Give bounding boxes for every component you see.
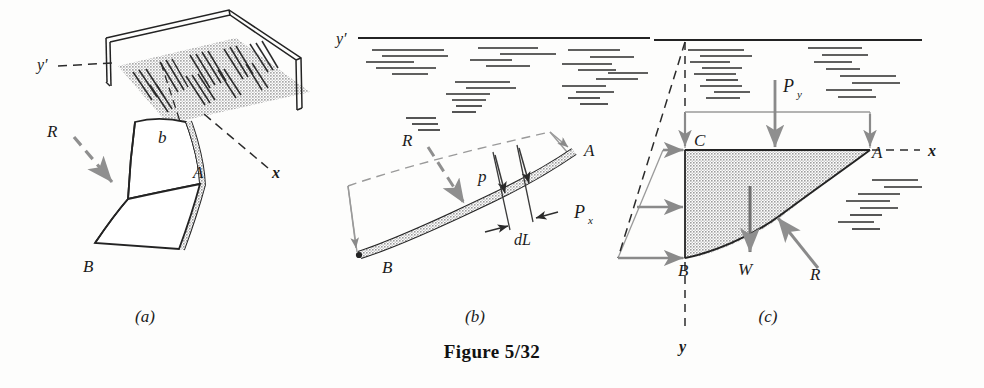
- force-label-Px-subscript-c: x: [587, 214, 593, 226]
- point-label-B-c: B: [678, 261, 689, 280]
- panel-label-c: (c): [759, 307, 778, 326]
- figure-canvas: y′ x R b A B (a): [0, 0, 984, 388]
- force-label-R-c: R: [809, 265, 821, 284]
- force-label-Py-c: P: [782, 76, 794, 96]
- axis-label-y-prime-b: y′: [334, 30, 347, 48]
- force-label-Py-subscript-c: y: [796, 88, 802, 100]
- axis-label-x-c: x: [927, 142, 936, 159]
- panel-label-b: (b): [465, 307, 485, 326]
- point-label-B-a: B: [83, 257, 94, 276]
- axis-label-x-a: x: [271, 164, 280, 181]
- point-label-A-b: A: [583, 141, 595, 160]
- force-label-R-a: R: [46, 122, 58, 141]
- point-label-C-c: C: [694, 131, 706, 150]
- force-label-W-c: W: [738, 260, 754, 279]
- axis-label-y-prime-a: y′: [35, 56, 48, 74]
- pressure-label-p-b: p: [477, 167, 487, 186]
- point-label-A-a: A: [192, 163, 204, 182]
- panel-label-a: (a): [135, 307, 155, 326]
- point-label-A-c: A: [871, 143, 883, 162]
- axis-label-y-c: y: [677, 338, 687, 356]
- point-label-B-b: B: [382, 258, 393, 277]
- force-label-Px-c: P: [573, 202, 585, 222]
- force-label-R-b: R: [401, 131, 413, 150]
- dimension-label-b-a: b: [158, 128, 167, 147]
- element-label-dL-b: dL: [514, 231, 531, 248]
- figure-5-32: y′ x R b A B (a): [0, 0, 984, 388]
- figure-caption: Figure 5/32: [444, 341, 540, 362]
